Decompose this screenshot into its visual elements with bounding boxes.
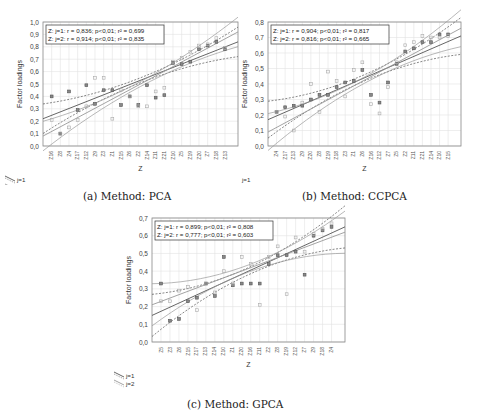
data-point [160,282,163,285]
x-tick-label: Z10 [220,347,226,356]
x-tick-label: Z8 [316,151,322,157]
x-axis-label: Z [246,361,251,368]
confidence-band [268,47,461,151]
data-point [303,273,306,276]
y-tick-label: 0,1 [30,130,39,137]
stats-line: Z: j=2: r = 0,914; p<0,01; r² = 0,835 [48,35,145,42]
y-tick-label: 0,7 [139,215,148,222]
data-point [198,48,201,51]
x-tick-label: Z11 [152,151,158,159]
x-tick-label: Z17 [282,151,288,160]
chart-panel-pca: 0,00,10,20,30,40,50,60,70,80,91,0Z16Z8Z4… [0,0,240,205]
y-axis-label: Factor loadings [241,60,249,108]
y-tick-label: 0,5 [255,65,264,72]
data-point [258,282,261,285]
scatter-chart-gpca: 0,00,10,20,30,40,50,60,7Z5Z3Z6Z15Z17Z13Z… [110,205,370,395]
data-point [294,250,297,253]
data-point [267,263,270,266]
y-tick-label: 0,8 [255,19,264,26]
scatter-chart-pca: 0,00,10,20,30,40,50,60,70,80,91,0Z16Z8Z4… [0,0,240,185]
x-tick-label: Z15 [445,151,451,160]
data-point [163,94,166,97]
data-point [120,104,123,107]
data-point [85,84,88,87]
x-tick-label: Z18 [213,151,219,160]
x-tick-label: Z9 [310,347,316,353]
legend-line-icon [5,184,15,185]
data-point [249,282,252,285]
data-point [59,132,62,135]
x-tick-label: Z7 [385,151,391,157]
x-tick-label: Z14 [428,151,434,160]
caption-pca: (a) Method: PCA [83,190,171,202]
y-axis-label: Factor loadings [125,256,133,304]
y-tick-label: 0,4 [139,268,148,275]
caption-ccpca: (b) Method: CCPCA [302,190,407,202]
y-tick-label: 0,0 [255,143,264,150]
confidence-band [152,248,345,337]
data-point [361,69,364,72]
y-tick-label: 0,8 [30,43,39,50]
scatter-chart-ccpca: 0,00,10,20,30,40,50,60,70,8Z4Z17Z13Z9Z20… [240,0,481,185]
x-tick-label: Z3 [100,151,106,157]
data-point [352,80,355,83]
y-tick-label: 0,6 [255,50,264,57]
y-tick-label: 0,0 [139,339,148,346]
data-point [344,81,347,84]
x-tick-label: Z3 [342,151,348,157]
data-point [412,47,415,50]
y-tick-label: 0,6 [30,68,39,75]
x-tick-label: Z1 [350,151,356,157]
data-point [154,96,157,99]
data-point [195,296,198,299]
data-point [146,84,149,87]
x-tick-label: Z20 [238,347,244,356]
x-tick-label: Z8 [274,347,280,353]
y-tick-label: 1,0 [30,19,39,26]
data-point [327,93,330,96]
x-tick-label: Z17 [193,347,199,356]
x-tick-label: Z4 [273,151,279,157]
legend-label: j=1 [16,176,26,183]
y-tick-label: 0,6 [139,232,148,239]
data-point [222,256,225,259]
y-tick-label: 0,5 [139,250,148,257]
y-tick-label: 0,4 [255,81,264,88]
x-tick-label: Z14 [144,151,150,160]
x-tick-label: Z7 [301,347,307,353]
x-axis-label: Z [138,165,143,172]
data-point [309,98,312,101]
stats-line: Z: j=1: r = 0,904; p<0,01; r² = 0,817 [273,27,370,34]
stats-line: Z: j=2: r = 0,777; p<0,01; r² = 0,603 [157,231,254,238]
x-tick-label: Z19 [325,151,331,160]
data-point [321,229,324,232]
x-tick-label: Z18 [319,347,325,356]
data-point [50,95,53,98]
data-point [275,111,278,114]
data-point [378,101,381,104]
x-tick-label: Z13 [202,347,208,356]
legend-label: j=2 [125,380,135,387]
data-point [292,104,295,107]
confidence-band [152,206,345,295]
stats-line: Z: j=1: r = 0,899; p<0,01; r² = 0,808 [157,223,254,230]
data-point [276,254,279,257]
data-point [128,95,131,98]
chart-panel-gpca: 0,00,10,20,30,40,50,60,7Z5Z3Z6Z15Z17Z13Z… [110,205,370,418]
x-tick-label: Z10 [436,151,442,160]
x-tick-label: Z2 [265,347,271,353]
data-point [438,33,441,36]
regression-line [152,232,345,305]
x-tick-label: Z20 [307,151,313,160]
x-tick-label: Z21 [419,151,425,160]
data-point [404,50,407,53]
regression-line [43,42,238,119]
data-point [187,300,190,303]
data-point [312,234,315,237]
data-point [421,41,424,44]
x-tick-label: Z5 [178,151,184,157]
y-tick-label: 0,4 [30,93,39,100]
y-tick-label: 0,3 [255,96,264,103]
x-tick-label: Z7 [204,151,210,157]
data-point [240,282,243,285]
